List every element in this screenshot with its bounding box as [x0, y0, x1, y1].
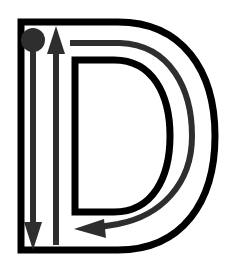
- letter-d-outline: [21, 22, 215, 250]
- letter-stroke-order-diagram: Uppercase D stroke order tracing guide: [0, 0, 234, 266]
- stroke-start-dot-icon: [21, 28, 45, 52]
- letter-tracing-worksheet: Uppercase D stroke order tracing guide: [0, 0, 234, 266]
- letter-d-inner-counter: [75, 60, 170, 212]
